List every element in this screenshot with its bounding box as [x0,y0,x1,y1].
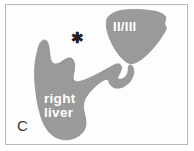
panel-letter: C [17,117,28,134]
figure-panel-c: ✱ II/III right liver C [0,0,194,151]
anatomical-diagram [6,5,187,144]
segment-ii-iii-shape [106,9,166,63]
asterisk-marker: ✱ [71,30,84,45]
